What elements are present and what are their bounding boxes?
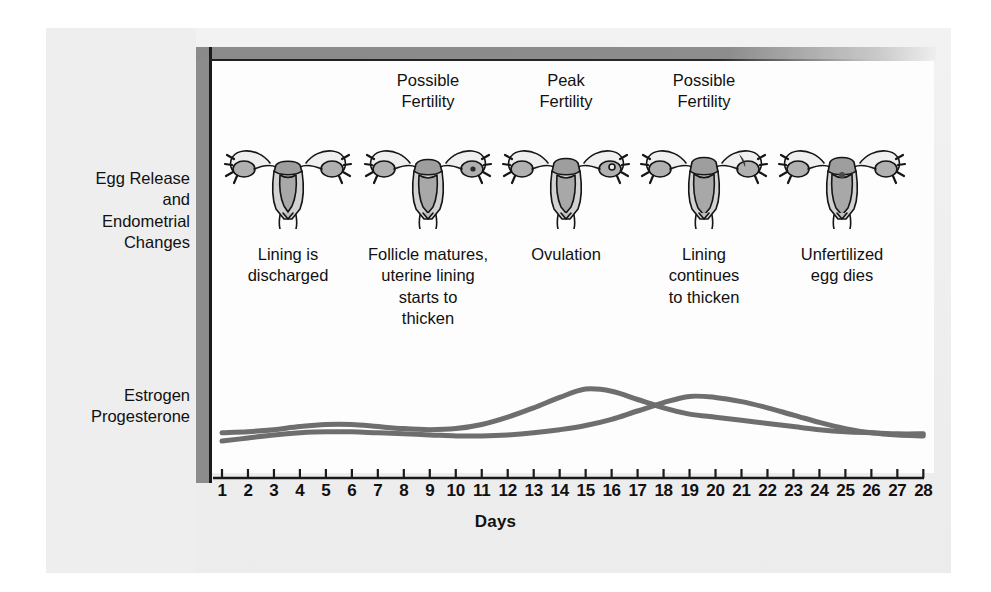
axis-tick-labels: 1234567891011121314151617181920212223242… [212, 481, 934, 505]
uterus-icon [358, 124, 498, 234]
phase-caption-4: Unfertilized egg dies [772, 244, 912, 287]
axis-tick-label: 6 [347, 481, 356, 501]
axis-tick-label: 17 [628, 481, 646, 501]
axis-tick-label: 26 [862, 481, 880, 501]
phase-column-2: Peak Fertility [496, 70, 636, 265]
axis-tick-label: 4 [295, 481, 304, 501]
axis-tick-label: 9 [425, 481, 434, 501]
phase-column-1: Possible Fertility [358, 70, 498, 330]
axis-tick-label: 7 [373, 481, 382, 501]
axis-tick-label: 10 [447, 481, 465, 501]
axis-tick-label: 18 [654, 481, 672, 501]
axis-tick-label: 27 [888, 481, 906, 501]
axis-tick-label: 21 [732, 481, 750, 501]
uterus-icon [496, 124, 636, 234]
frame-top-rule [209, 59, 936, 61]
row-label-hormones: Estrogen Progesterone [20, 385, 190, 428]
axis-tick-label: 1 [217, 481, 226, 501]
axis-ticks [222, 469, 923, 478]
phase-caption-2: Ovulation [496, 244, 636, 265]
uterus-icon [634, 124, 774, 234]
axis-title-days: Days [0, 512, 991, 532]
axis-tick-label: 22 [758, 481, 776, 501]
axis-tick-label: 15 [576, 481, 594, 501]
phase-header-1: Possible Fertility [358, 70, 498, 116]
axis-tick-label: 5 [321, 481, 330, 501]
phase-header-4 [772, 70, 912, 116]
hormone-curves [212, 352, 934, 477]
axis-tick-label: 28 [914, 481, 932, 501]
curve-progesterone [222, 396, 923, 441]
row-label-egg-release: Egg Release and Endometrial Changes [20, 168, 190, 254]
uterus-icon [772, 124, 912, 234]
phase-header-0 [218, 70, 358, 116]
phase-header-2: Peak Fertility [496, 70, 636, 116]
axis-tick-label: 3 [269, 481, 278, 501]
axis-tick-label: 2 [243, 481, 252, 501]
axis-tick-label: 23 [784, 481, 802, 501]
axis-tick-label: 8 [399, 481, 408, 501]
frame-left-shadow [196, 47, 210, 483]
phase-header-3: Possible Fertility [634, 70, 774, 116]
axis-tick-label: 14 [551, 481, 569, 501]
axis-tick-label: 25 [836, 481, 854, 501]
axis-tick-label: 11 [473, 481, 490, 501]
phase-caption-1: Follicle matures, uterine lining starts … [358, 244, 498, 330]
phase-column-3: Possible Fertility [634, 70, 774, 308]
phase-caption-0: Lining is discharged [218, 244, 358, 287]
axis-tick-label: 24 [810, 481, 828, 501]
axis-tick-label: 19 [680, 481, 698, 501]
phase-column-4: Unfertilized egg dies [772, 70, 912, 287]
axis-tick-label: 20 [706, 481, 724, 501]
axis-tick-label: 12 [499, 481, 517, 501]
phase-column-0: Lining is discharged [218, 70, 358, 287]
axis-tick-label: 13 [525, 481, 543, 501]
menstrual-cycle-figure: Egg Release and Endometrial Changes Estr… [0, 0, 991, 592]
axis-tick-label: 16 [602, 481, 620, 501]
uterus-icon [218, 124, 358, 234]
phase-caption-3: Lining continues to thicken [634, 244, 774, 308]
